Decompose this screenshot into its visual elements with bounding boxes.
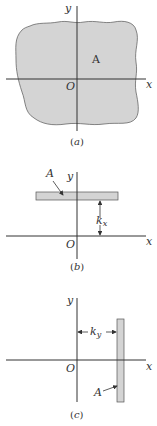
- area-label: A: [91, 53, 101, 66]
- y-axis-label: y: [64, 2, 72, 15]
- panel-b: y x O A kx (b): [6, 167, 153, 272]
- origin-label: O: [66, 80, 75, 93]
- panel-a: y x O A (a): [6, 2, 153, 147]
- origin-label: O: [66, 362, 75, 375]
- figure-canvas: y x O A (a) y x O A kx (b) y x O A ky (c…: [0, 0, 157, 426]
- x-axis-label: x: [146, 360, 153, 373]
- y-axis-label: y: [66, 294, 74, 307]
- ky-label: ky: [90, 325, 102, 339]
- kx-label: kx: [96, 214, 108, 228]
- origin-label: O: [66, 238, 75, 251]
- area-label: A: [93, 386, 102, 399]
- panel-c: y x O A ky (c): [6, 294, 153, 420]
- caption-b: (b): [70, 261, 84, 272]
- x-axis-label: x: [146, 78, 153, 91]
- x-axis-label: x: [146, 235, 153, 248]
- caption-a: (a): [70, 136, 84, 147]
- area-label: A: [45, 167, 54, 180]
- y-axis-label: y: [66, 170, 74, 183]
- area-leader-arrow: [103, 386, 117, 391]
- caption-c: (c): [70, 409, 84, 420]
